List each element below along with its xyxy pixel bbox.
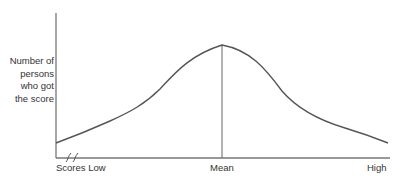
x-tick-high: High bbox=[367, 162, 387, 173]
x-tick-mean: Mean bbox=[210, 162, 234, 173]
chart-plot bbox=[0, 0, 402, 187]
x-tick-low: Scores Low bbox=[56, 162, 106, 173]
